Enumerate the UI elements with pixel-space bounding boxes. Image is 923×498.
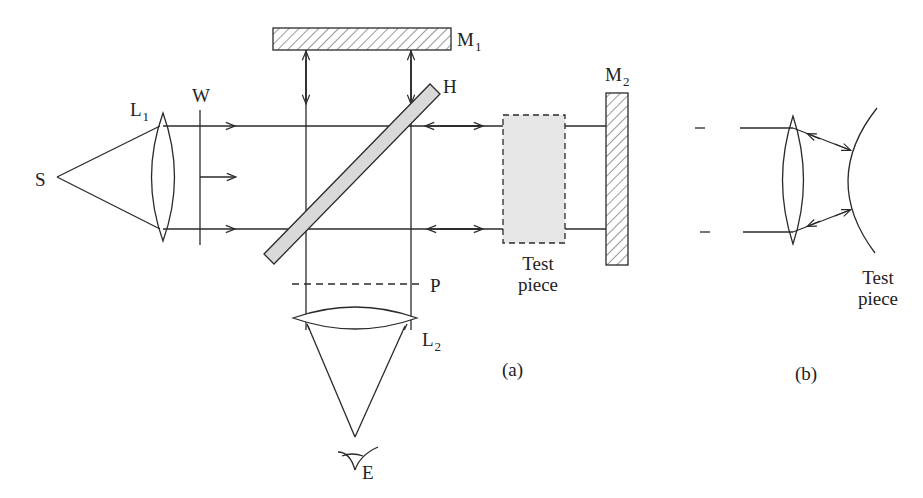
test-piece-a [503,115,565,243]
label-l2-main: L [422,329,434,350]
label-m1-main: M [457,29,474,50]
label-w: W [192,86,210,105]
label-l1-main: L [130,99,142,120]
label-s: S [35,170,46,189]
label-m2-sub: 2 [623,74,630,89]
label-e: E [362,463,374,482]
label-l1-sub: 1 [143,109,150,124]
caption-test-piece-b-line1: Test [848,268,908,289]
panel-b-arrow-1 [835,144,850,150]
label-l2-sub: 2 [435,339,442,354]
caption-test-piece-a: Test piece [508,254,568,296]
panel-b-arrow-3 [835,210,850,216]
panel-b-arrow-4 [808,221,820,226]
panel-label-b: (b) [795,364,817,383]
label-m1-sub: 1 [475,39,482,54]
label-p: P [430,276,441,295]
test-piece-b-surface [848,108,877,253]
panel-b-beams [695,128,850,232]
beamsplitter-h [264,84,440,264]
panel-label-a: (a) [502,360,523,379]
interferometer-diagram [0,0,923,498]
label-l1: L1 [130,100,149,119]
source-rays [57,126,160,229]
lens-panel-b [783,116,804,244]
lens-l2 [293,307,417,329]
label-h: H [443,77,457,96]
caption-test-piece-b-line2: piece [848,289,908,310]
label-m2: M2 [605,65,629,84]
mirror-m1 [273,28,451,50]
panel-b-arrow-2 [808,134,820,139]
caption-test-piece-a-line2: piece [508,275,568,296]
label-m2-main: M [605,64,622,85]
mirror-m2 [606,93,628,265]
caption-test-piece-b: Test piece [848,268,908,310]
label-m1: M1 [457,30,481,49]
caption-test-piece-a-line1: Test [508,254,568,275]
label-l2: L2 [422,330,441,349]
lens-l1 [152,113,175,241]
